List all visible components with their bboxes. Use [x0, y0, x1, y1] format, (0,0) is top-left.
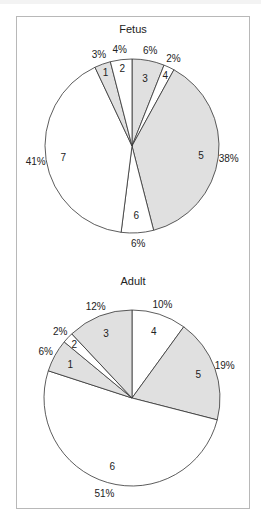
slice-percent-label: 6% [143, 45, 158, 56]
slice-percent-label: 12% [86, 301, 106, 312]
slice-percent-label: 3% [92, 49, 107, 60]
slice-percent-label: 51% [94, 488, 114, 499]
slice-number-label: 6 [134, 210, 140, 221]
slice-percent-label: 38% [219, 153, 239, 164]
slice-number-label: 3 [142, 73, 148, 84]
slice-percent-label: 4% [113, 44, 128, 55]
slice-number-label: 1 [103, 67, 109, 78]
slice-percent-label: 19% [215, 360, 235, 371]
slice-number-label: 5 [195, 369, 201, 380]
slice-number-label: 4 [151, 326, 157, 337]
fetus-pie: 36%42%538%66%741%13%24% [26, 44, 239, 249]
slice-number-label: 2 [119, 63, 125, 74]
adult-title: Adult [120, 275, 145, 287]
adult-pie: 410%519%651%16%22%312% [38, 299, 234, 498]
slice-percent-label: 2% [53, 326, 68, 337]
slice-percent-label: 6% [131, 238, 146, 249]
slice-percent-label: 10% [152, 299, 172, 310]
fetus-title: Fetus [119, 23, 147, 35]
slice-percent-label: 6% [38, 346, 53, 357]
slice-number-label: 5 [198, 150, 204, 161]
slice-percent-label: 41% [26, 156, 46, 167]
slice-percent-label: 2% [166, 53, 181, 64]
slice-number-label: 7 [60, 152, 66, 163]
slice-number-label: 1 [68, 359, 74, 370]
slice-number-label: 6 [110, 461, 116, 472]
slice-number-label: 4 [163, 70, 169, 81]
slice-number-label: 2 [71, 339, 77, 350]
pie-charts: Fetus 36%42%538%66%741%13%24% Adult 410%… [0, 0, 261, 518]
slice-number-label: 3 [103, 328, 109, 339]
